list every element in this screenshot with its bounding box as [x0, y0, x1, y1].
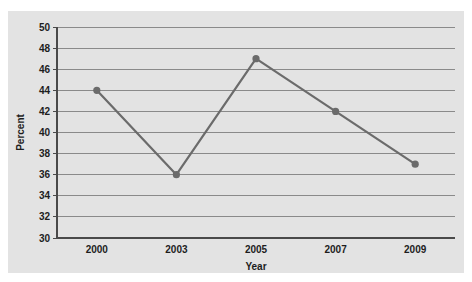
- x-tick-label: 2003: [165, 244, 188, 255]
- line-chart-plot: 3032343638404244464850 20002003200520072…: [8, 11, 464, 273]
- y-tick-label: 38: [39, 148, 51, 159]
- y-tick-label: 30: [39, 233, 51, 244]
- y-tick-label: 46: [39, 64, 51, 75]
- figure-caption: [0, 0, 472, 3]
- x-tick-label: 2000: [86, 244, 109, 255]
- y-axis-title: Percent: [15, 113, 26, 150]
- data-series-line: [97, 59, 415, 175]
- y-tick-label: 32: [39, 211, 51, 222]
- chart-panel: 3032343638404244464850 20002003200520072…: [8, 11, 464, 273]
- y-tick-label: 50: [39, 22, 51, 33]
- data-point-marker: [252, 55, 259, 62]
- data-point-marker: [173, 171, 180, 178]
- data-point-markers-group: [93, 55, 419, 178]
- x-tick-label: 2005: [245, 244, 268, 255]
- data-point-marker: [93, 87, 100, 94]
- data-point-marker: [412, 161, 419, 168]
- x-tick-label: 2007: [324, 244, 347, 255]
- chart-figure: 3032343638404244464850 20002003200520072…: [0, 0, 472, 282]
- y-tick-label: 42: [39, 106, 51, 117]
- y-tick-label: 34: [39, 190, 51, 201]
- x-tick-label: 2009: [404, 244, 427, 255]
- y-tick-label: 48: [39, 43, 51, 54]
- data-point-marker: [332, 108, 339, 115]
- y-tick-label: 40: [39, 127, 51, 138]
- x-axis-ticks-group: 20002003200520072009: [86, 244, 427, 255]
- y-tick-label: 36: [39, 169, 51, 180]
- y-tick-label: 44: [39, 85, 51, 96]
- x-axis-title: Year: [245, 261, 266, 272]
- y-axis-ticks-group: 3032343638404244464850: [39, 22, 57, 244]
